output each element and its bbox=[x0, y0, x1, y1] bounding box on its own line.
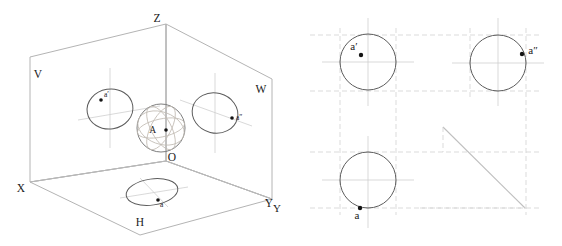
label-point-a: a bbox=[160, 200, 164, 209]
right-label-axis-y: Y bbox=[273, 202, 281, 214]
label-point-a-prime: a′ bbox=[104, 90, 109, 99]
technical-drawing-canvas: V W H Z X Y O A a′ a″ a bbox=[0, 0, 562, 246]
right-point-a-prime-marker bbox=[359, 53, 363, 57]
right-label-point-a-double-prime: a″ bbox=[528, 44, 537, 56]
miter-corner-guides bbox=[420, 127, 526, 208]
label-point-A: A bbox=[149, 125, 156, 135]
construction-frame bbox=[310, 28, 540, 215]
label-axis-x: X bbox=[17, 182, 26, 194]
sphere-body bbox=[133, 102, 189, 154]
forty-five-degree-miter-line bbox=[443, 127, 525, 208]
label-plane-v: V bbox=[34, 68, 43, 80]
point-a-double-prime-marker bbox=[230, 116, 234, 120]
label-origin-o: O bbox=[168, 151, 176, 163]
right-label-point-a: a bbox=[355, 209, 360, 221]
label-plane-w: W bbox=[256, 83, 267, 95]
sphere-great-circle-equator bbox=[136, 114, 187, 142]
right-panel-orthographic: Y a′ a″ a bbox=[273, 18, 544, 228]
point-a-prime-marker bbox=[99, 98, 103, 102]
left-panel-pictorial: V W H Z X Y O A a′ a″ a bbox=[17, 12, 274, 235]
point-A-marker bbox=[164, 128, 168, 132]
label-point-a-double-prime: a″ bbox=[236, 113, 242, 122]
right-point-a-double-prime-marker bbox=[520, 52, 524, 56]
label-axis-z: Z bbox=[153, 12, 160, 24]
x-axis-line bbox=[30, 161, 166, 182]
y-axis-line bbox=[166, 161, 272, 199]
horizontal-projection-on-h bbox=[124, 176, 179, 209]
label-plane-h: H bbox=[136, 216, 144, 228]
v-plane-quad bbox=[30, 24, 166, 182]
right-label-point-a-prime: a′ bbox=[350, 40, 357, 52]
sphere-great-circle-oblique bbox=[133, 105, 189, 151]
figure-root: V W H Z X Y O A a′ a″ a bbox=[0, 0, 562, 246]
h-plane-quad bbox=[30, 161, 272, 235]
plane-center-lines bbox=[78, 68, 252, 207]
h-projection-ellipse bbox=[124, 176, 179, 209]
w-plane-quad bbox=[166, 24, 272, 199]
